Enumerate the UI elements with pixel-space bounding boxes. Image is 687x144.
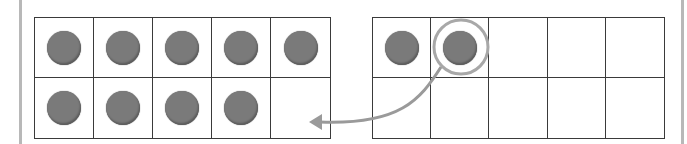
arrowhead-icon <box>309 114 322 130</box>
curved-arrow-icon <box>320 67 441 122</box>
move-arrow-overlay <box>0 0 687 144</box>
highlight-ring-icon <box>434 20 488 74</box>
